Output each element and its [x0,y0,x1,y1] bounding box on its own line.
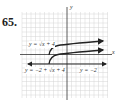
label-f3: y = −2 [80,67,97,74]
label-f2: y = −2 + √x + 4 [25,67,65,74]
graph [0,0,127,107]
grid [22,12,108,98]
label-f1: y = √x + 4 [29,41,55,48]
x-axis-label: x [112,49,115,56]
y-axis-label: y [70,4,73,11]
